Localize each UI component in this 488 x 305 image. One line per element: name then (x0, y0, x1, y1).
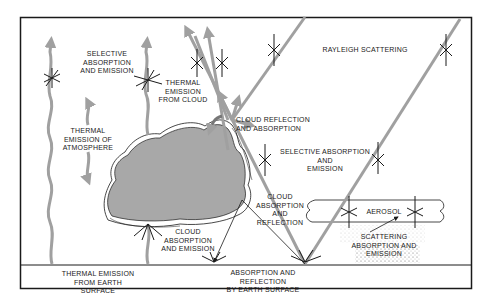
label-cloud-absorption-reflection: CLOUD ABSORPTION AND REFLECTION (256, 193, 304, 227)
thermal-emission-atmosphere-arrow-down (87, 152, 89, 180)
label-aerosol: AEROSOL (364, 208, 404, 217)
label-cloud-absorption-emission: CLOUD ABSORPTION AND EMISSION (160, 228, 216, 254)
label-selective-absorption-mid: SELECTIVE ABSORPTION AND EMISSION (280, 148, 370, 174)
star-icon (291, 250, 321, 262)
label-absorption-reflection-earth: ABSORPTION AND REFLECTION BY EARTH SURFA… (208, 269, 318, 295)
star-icon (259, 144, 271, 176)
star-icon (268, 34, 280, 66)
label-selective-absorption-top: SELECTIVE ABSORPTION AND EMISSION (72, 50, 142, 76)
star-icon (202, 252, 226, 262)
label-thermal-emission-earth: THERMAL EMISSION FROM EARTH SURFACE (56, 270, 140, 296)
star-icon (216, 49, 228, 77)
label-cloud-reflection-absorption: CLOUD REFLECTION AND ABSORPTION (236, 116, 318, 133)
label-thermal-emission-atmosphere: THERMAL EMISSION OF ATMOSPHERE (62, 127, 114, 153)
label-scattering-absorption-emission: SCATTERING ABSORPTION AND EMISSION (334, 233, 434, 259)
thermal-emission-atmosphere-arrow-up (87, 102, 89, 125)
atmospheric-radiation-diagram (0, 0, 488, 305)
star-icon (44, 68, 60, 88)
label-rayleigh-scattering: RAYLEIGH SCATTERING (320, 46, 410, 55)
cloud (104, 120, 252, 227)
label-thermal-emission-cloud: THERMAL EMISSION FROM CLOUD (154, 79, 212, 105)
